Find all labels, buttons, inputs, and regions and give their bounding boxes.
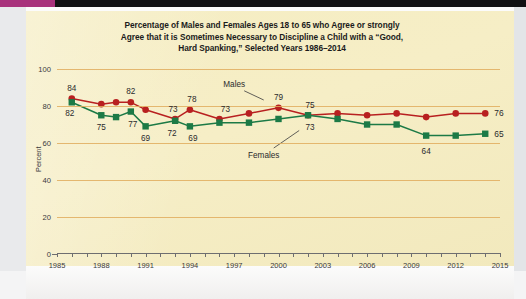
y-axis-tick-label: 20	[43, 213, 51, 222]
chart-title-line-3: Hard Spanking,” Selected Years 1986–2014	[60, 43, 464, 55]
data-point-marker[interactable]	[334, 110, 341, 117]
x-axis-tick-minor	[264, 254, 265, 257]
data-point-marker[interactable]	[423, 114, 430, 121]
gridline	[57, 217, 500, 218]
y-axis-tick-label: 60	[43, 139, 51, 148]
page-edge-magenta-strip	[0, 0, 55, 7]
data-point-label: 82	[65, 109, 74, 118]
data-point-marker[interactable]	[128, 99, 135, 106]
data-point-label: 73	[221, 104, 230, 113]
x-axis-tick-minor	[160, 254, 161, 257]
x-axis-tick-label: 2012	[447, 261, 464, 270]
data-point-marker[interactable]	[364, 112, 371, 119]
x-axis-tick-minor	[382, 254, 383, 257]
series-end-label-females: 65	[494, 129, 503, 139]
data-point-label: 73	[169, 104, 178, 113]
x-axis-tick-major	[411, 253, 412, 257]
plot-area: 0204060801001985198819911994199720002003…	[57, 69, 500, 254]
x-axis-tick-minor	[249, 254, 250, 257]
data-point-label: 73	[305, 123, 314, 132]
x-axis-tick-major	[500, 253, 501, 257]
x-axis-tick-minor	[293, 254, 294, 257]
data-point-marker[interactable]	[393, 121, 399, 127]
page-margin-right	[514, 7, 526, 299]
data-point-marker[interactable]	[113, 99, 120, 106]
x-axis-tick-label: 1994	[182, 261, 199, 270]
x-axis-tick-major	[279, 253, 280, 257]
x-axis-tick-label: 1985	[49, 261, 66, 270]
page-margin-left	[0, 7, 26, 299]
x-axis-tick-minor	[72, 254, 73, 257]
data-point-marker[interactable]	[482, 110, 489, 117]
annotation-females: Females	[248, 151, 279, 160]
x-axis-tick-minor	[175, 254, 176, 257]
x-axis-tick-label: 2003	[314, 261, 331, 270]
data-point-label: 75	[305, 101, 314, 110]
data-point-marker[interactable]	[216, 119, 222, 125]
series-end-label-males: 76	[494, 108, 503, 118]
x-axis-tick-minor	[485, 254, 486, 257]
x-axis-tick-minor	[131, 254, 132, 257]
data-point-marker[interactable]	[482, 131, 488, 137]
data-point-label: 79	[274, 92, 283, 101]
x-axis-tick-major	[367, 253, 368, 257]
data-point-marker[interactable]	[452, 110, 459, 117]
x-axis-tick-major	[101, 253, 102, 257]
y-axis-tick-label: 80	[43, 102, 51, 111]
x-axis-tick-label: 2015	[492, 261, 509, 270]
data-point-marker[interactable]	[246, 110, 253, 117]
gridline	[57, 180, 500, 181]
x-axis-tick-major	[190, 253, 191, 257]
gridline	[57, 143, 500, 144]
data-point-marker[interactable]	[364, 121, 370, 127]
annotation-leader-line	[244, 91, 264, 100]
data-point-marker[interactable]	[334, 116, 340, 122]
x-axis-tick-label: 1991	[137, 261, 154, 270]
data-point-marker[interactable]	[172, 118, 178, 124]
x-axis-tick-minor	[219, 254, 220, 257]
data-point-marker[interactable]	[69, 99, 75, 105]
data-point-marker[interactable]	[113, 114, 119, 120]
x-axis-tick-major	[146, 253, 147, 257]
data-point-marker[interactable]	[453, 132, 459, 138]
annotation-leader-line	[274, 131, 299, 149]
x-axis-tick-label: 1988	[93, 261, 110, 270]
gridline	[57, 69, 500, 70]
y-axis-tick-label: 0	[47, 250, 51, 259]
data-point-marker[interactable]	[305, 112, 311, 118]
chart-title-line-1: Percentage of Males and Females Ages 18 …	[60, 20, 464, 32]
data-point-marker[interactable]	[187, 123, 193, 129]
x-axis-tick-minor	[441, 254, 442, 257]
x-axis-tick-major	[323, 253, 324, 257]
data-point-marker[interactable]	[423, 132, 429, 138]
data-point-marker[interactable]	[246, 119, 252, 125]
x-axis-tick-minor	[426, 254, 427, 257]
data-point-label: 75	[97, 123, 106, 132]
x-axis-tick-major	[456, 253, 457, 257]
y-axis-tick-label: 40	[43, 176, 51, 185]
x-axis-tick-minor	[338, 254, 339, 257]
data-point-marker[interactable]	[142, 106, 149, 113]
x-axis-tick-minor	[397, 254, 398, 257]
data-point-label: 82	[126, 87, 135, 96]
x-axis-tick-label: 2000	[270, 261, 287, 270]
data-point-marker[interactable]	[98, 112, 104, 118]
data-point-marker[interactable]	[393, 110, 400, 117]
data-point-marker[interactable]	[128, 108, 134, 114]
data-point-marker[interactable]	[142, 123, 148, 129]
annotation-males: Males	[223, 79, 245, 88]
gridline	[57, 106, 500, 107]
x-axis-tick-minor	[87, 254, 88, 257]
x-axis-tick-major	[57, 253, 58, 257]
data-point-label: 72	[168, 128, 177, 137]
data-point-marker[interactable]	[275, 116, 281, 122]
x-axis-tick-major	[234, 253, 235, 257]
x-axis-tick-label: 2009	[403, 261, 420, 270]
x-axis-tick-minor	[308, 254, 309, 257]
data-point-label: 64	[422, 146, 431, 155]
page-edge-dark-strip	[55, 0, 526, 7]
chart-title: Percentage of Males and Females Ages 18 …	[60, 20, 464, 55]
data-point-marker[interactable]	[187, 106, 194, 113]
y-axis-label: Percent	[34, 147, 43, 172]
data-point-label: 69	[188, 134, 197, 143]
